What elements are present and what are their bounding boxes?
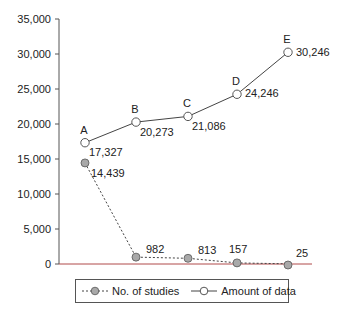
series-amount-of-data: 17,32720,27321,08624,24630,246: [81, 46, 330, 157]
category-label: D: [232, 75, 240, 87]
category-labels: ABCDE: [80, 33, 290, 135]
dashed-filled-circle-marker-icon: [82, 286, 108, 296]
data-point: [184, 112, 192, 120]
data-label: 25: [296, 247, 308, 259]
data-point: [284, 48, 292, 56]
y-tick-label: 5,000: [23, 223, 51, 235]
y-tick-label: 30,000: [17, 48, 51, 60]
y-tick-label: 20,000: [17, 118, 51, 130]
data-point: [184, 254, 192, 262]
legend: No. of studies Amount of data: [75, 279, 289, 303]
data-point: [132, 253, 140, 261]
category-label: A: [80, 124, 88, 136]
data-point: [233, 90, 241, 98]
category-label: B: [131, 103, 138, 115]
data-label: 30,246: [296, 46, 330, 58]
data-point: [81, 159, 89, 167]
data-label: 813: [198, 244, 216, 256]
y-tick-label: 0: [45, 258, 51, 270]
legend-item-amount-of-data: Amount of data: [191, 285, 296, 297]
data-label: 157: [229, 243, 247, 255]
data-label: 24,246: [245, 87, 279, 99]
y-tick-label: 10,000: [17, 188, 51, 200]
y-axis: 05,00010,00015,00020,00025,00030,00035,0…: [17, 13, 59, 270]
data-point: [233, 259, 241, 267]
category-label: C: [183, 97, 191, 109]
data-point: [132, 118, 140, 126]
legend-item-no-of-studies: No. of studies: [82, 285, 179, 297]
data-label: 20,273: [140, 126, 174, 138]
y-tick-label: 15,000: [17, 153, 51, 165]
data-point: [284, 261, 292, 269]
legend-label: Amount of data: [221, 285, 296, 297]
data-point: [81, 139, 89, 147]
series-no-of-studies: 14,43998281315725: [81, 159, 308, 269]
category-label: E: [283, 33, 290, 45]
data-label: 17,327: [89, 146, 123, 158]
solid-open-circle-marker-icon: [191, 286, 217, 296]
y-tick-label: 25,000: [17, 83, 51, 95]
data-label: 21,086: [192, 120, 226, 132]
legend-label: No. of studies: [112, 285, 179, 297]
y-tick-label: 35,000: [17, 13, 51, 25]
line-chart: 05,00010,00015,00020,00025,00030,00035,0…: [0, 0, 350, 316]
data-label: 982: [146, 243, 164, 255]
data-label: 14,439: [91, 167, 125, 179]
